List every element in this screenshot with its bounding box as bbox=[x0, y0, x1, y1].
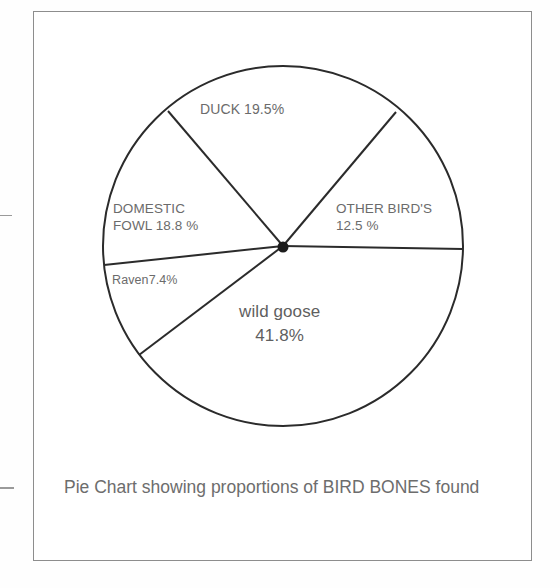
pie-slice-label-domestic-fowl: DOMESTIC FOWL 18.8 % bbox=[113, 200, 198, 234]
pie-center-dot bbox=[278, 242, 289, 253]
pie-slice-label-raven: Raven7.4% bbox=[112, 272, 178, 289]
chart-caption: Pie Chart showing proportions of BIRD BO… bbox=[64, 474, 484, 500]
pie-slice-label-wild-goose: wild goose 41.8% bbox=[239, 300, 320, 348]
page-canvas: DUCK 19.5% DOMESTIC FOWL 18.8 % OTHER BI… bbox=[0, 0, 560, 588]
pie-slice-label-other-birds: OTHER BIRD'S 12.5 % bbox=[336, 200, 432, 234]
pie-slice-label-duck: DUCK 19.5% bbox=[200, 101, 284, 118]
